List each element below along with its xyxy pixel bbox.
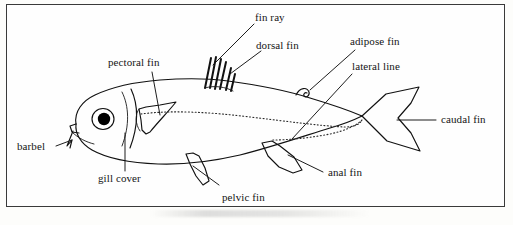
anal-fin xyxy=(262,141,302,173)
label-anal-fin: anal fin xyxy=(328,167,362,178)
dorsal-fin-membrane xyxy=(205,87,233,91)
pectoral-fin xyxy=(139,102,176,134)
leader-dorsal-fin xyxy=(230,51,261,74)
fish-body-lower-outline xyxy=(76,116,362,164)
leader-lateral-line xyxy=(292,74,352,139)
dorsal-fin-ray-6 xyxy=(231,74,235,91)
caudal-fin xyxy=(362,87,420,151)
label-fin-ray: fin ray xyxy=(255,12,285,23)
leader-anal-fin xyxy=(288,155,323,172)
dorsal-fin-ray-5 xyxy=(226,68,231,90)
leader-fin-ray xyxy=(213,24,254,65)
label-lateral-line: lateral line xyxy=(352,61,400,72)
leader-adipose-fin xyxy=(310,50,355,90)
barbel-whisker xyxy=(67,131,73,148)
leader-pelvic-fin xyxy=(193,166,219,185)
label-dorsal-fin: dorsal fin xyxy=(256,40,299,51)
label-pectoral-fin: pectoral fin xyxy=(108,57,160,68)
label-barbel: barbel xyxy=(17,141,45,152)
eye-pupil xyxy=(98,113,110,125)
leader-pectoral-fin xyxy=(152,72,160,115)
gill-cover-arc xyxy=(130,89,137,148)
label-adipose-fin: adipose fin xyxy=(350,36,400,47)
fish-body-upper-outline xyxy=(76,79,362,124)
label-pelvic-fin: pelvic fin xyxy=(222,192,265,203)
lateral-line-dotted xyxy=(141,112,362,127)
label-gill-cover: gill cover xyxy=(98,173,141,184)
figure-container: fin ray dorsal fin adipose fin lateral l… xyxy=(0,0,513,225)
dorsal-fin-ray-4 xyxy=(220,62,226,89)
lateral-line-peduncle-curve xyxy=(272,120,362,140)
fish-mouth xyxy=(70,124,79,133)
label-caudal-fin: caudal fin xyxy=(441,114,486,125)
